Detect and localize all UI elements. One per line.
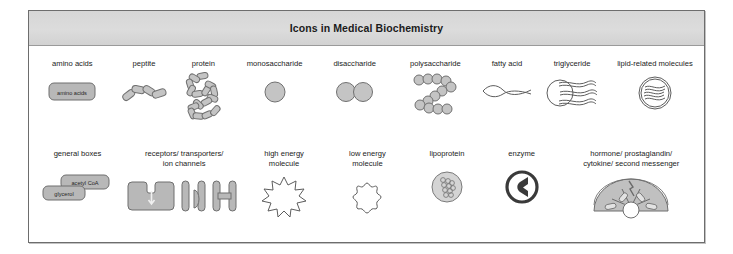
triglyceride-icon xyxy=(545,73,599,113)
icon-row-1: amino acids amino acids peptite xyxy=(29,59,704,121)
amino-acids-box-icon: amino acids xyxy=(42,75,102,109)
icon-label-lipoprotein: lipoprotein xyxy=(429,149,464,159)
icon-row-2: general boxes acetyl CoA glycerol recept… xyxy=(29,149,704,218)
icon-cell-high-energy-molecule: high energy molecule xyxy=(242,149,325,218)
polysaccharide-chain-icon xyxy=(409,72,461,118)
lipid-related-molecules-icon xyxy=(635,73,675,113)
general-boxes-icon: acetyl CoA glycerol xyxy=(35,173,119,207)
icon-cell-amino-acids: amino acids amino acids xyxy=(29,59,116,109)
icon-label-protein: protein xyxy=(192,59,215,69)
icon-cell-general-boxes: general boxes acetyl CoA glycerol xyxy=(29,149,126,207)
icon-label-fatty-acid: fatty acid xyxy=(492,59,522,69)
icon-cell-receptors-transporters-ion-channels: receptors/ transporters/ ion channels xyxy=(126,149,242,214)
icon-label-monosaccharide: monosaccharide xyxy=(247,59,303,69)
icon-cell-low-energy-molecule: low energy molecule xyxy=(326,149,409,215)
icon-label-enzyme: enzyme xyxy=(508,149,535,159)
icon-cell-triglyceride: triglyceride xyxy=(538,59,606,113)
icon-cell-hormone-prostaglandin-cytokine-second-messenger: hormone/ prostaglandin/ cytokine/ second… xyxy=(559,149,704,217)
monosaccharide-circle-icon xyxy=(258,79,292,105)
hormone-prostaglandin-cytokine-second-messenger-icon xyxy=(592,177,670,217)
icon-cell-lipid-related-molecules: lipid-related molecules xyxy=(606,59,704,113)
icon-cell-protein: protein xyxy=(172,59,234,121)
icon-label-high-energy-molecule: high energy molecule xyxy=(264,149,304,170)
lipoprotein-icon xyxy=(429,169,465,205)
icon-label-polysaccharide: polysaccharide xyxy=(410,59,461,69)
icon-label-hormone-prostaglandin-cytokine-second-messenger: hormone/ prostaglandin/ cytokine/ second… xyxy=(583,149,679,170)
icon-cell-peptite: peptite xyxy=(116,59,173,109)
icon-label-disaccharide: disaccharide xyxy=(333,59,376,69)
peptide-chain-icon xyxy=(116,75,172,109)
icon-label-triglyceride: triglyceride xyxy=(554,59,591,69)
icon-label-general-boxes: general boxes xyxy=(54,149,102,159)
icon-label-peptite: peptite xyxy=(133,59,156,69)
figure-panel: Icons in Medical Biochemistry amino acid… xyxy=(28,10,705,243)
page-title: Icons in Medical Biochemistry xyxy=(290,22,443,34)
icon-label-amino-acids: amino acids xyxy=(52,59,93,69)
icon-cell-enzyme: enzyme xyxy=(485,149,559,205)
general-box-label-acetyl-coa: acetyl CoA xyxy=(72,180,99,186)
icon-cell-polysaccharide: polysaccharide xyxy=(395,59,476,118)
high-energy-molecule-icon xyxy=(261,176,307,218)
amino-acids-box-label: amino acids xyxy=(57,90,87,96)
general-box-label-glycerol: glycerol xyxy=(55,191,74,197)
receptors-transporters-ion-channels-icon xyxy=(128,178,240,214)
icon-label-receptors-transporters-ion-channels: receptors/ transporters/ ion channels xyxy=(145,149,224,170)
figure-title-bar: Icons in Medical Biochemistry xyxy=(29,11,704,46)
disaccharide-two-circles-icon xyxy=(332,79,378,105)
icon-label-low-energy-molecule: low energy molecule xyxy=(349,149,386,170)
icon-cell-disaccharide: disaccharide xyxy=(315,59,395,105)
protein-folded-chain-icon xyxy=(177,71,229,121)
icon-label-lipid-related-molecules: lipid-related molecules xyxy=(617,59,693,69)
low-energy-molecule-icon xyxy=(349,181,385,215)
fatty-acid-wave-icon xyxy=(479,81,535,103)
icon-cell-lipoprotein: lipoprotein xyxy=(409,149,485,205)
icon-cell-monosaccharide: monosaccharide xyxy=(235,59,315,105)
icon-cell-fatty-acid: fatty acid xyxy=(476,59,538,103)
enzyme-icon xyxy=(504,169,540,205)
